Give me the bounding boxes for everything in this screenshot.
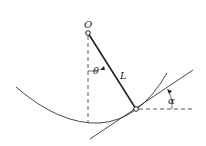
curved-path xyxy=(16,73,167,123)
pendulum-diagram: O θ L α xyxy=(0,0,206,146)
alpha-arrow-icon xyxy=(167,89,172,94)
bob-point xyxy=(134,107,139,112)
pivot-label: O xyxy=(84,19,92,30)
theta-label: θ xyxy=(93,65,99,76)
tangent-line xyxy=(90,70,193,139)
length-label: L xyxy=(119,70,127,81)
pivot-point xyxy=(86,31,91,36)
alpha-label: α xyxy=(168,95,175,106)
theta-arrow-icon xyxy=(100,66,105,70)
